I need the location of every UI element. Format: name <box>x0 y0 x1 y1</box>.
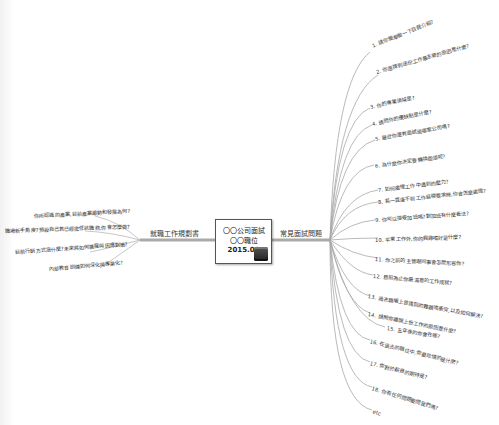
mind-map-canvas: 〇〇公司面試 〇〇職位 2015.06 就職工作規劃書 常見面試問題 你所認識的… <box>0 0 499 425</box>
central-company-interview: 〇〇公司面試 <box>223 227 265 237</box>
briefcase-icon <box>254 247 268 261</box>
central-position: 〇〇職位 <box>230 237 258 247</box>
left-branch-label[interactable]: 就職工作規劃書 <box>150 228 199 238</box>
right-branch-label[interactable]: 常見面試問題 <box>280 228 322 238</box>
